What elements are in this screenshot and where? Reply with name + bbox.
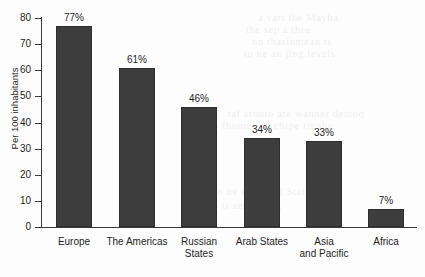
y-axis-tick bbox=[35, 149, 41, 150]
bar-chart-figure: a vari the Mayba the sep a thee no thasi… bbox=[0, 0, 425, 277]
y-axis-tick-label: 0 bbox=[7, 222, 31, 232]
x-axis-label-russian-states-line1: Russian bbox=[167, 236, 231, 248]
y-axis-tick bbox=[35, 175, 41, 176]
y-axis-tick bbox=[35, 96, 41, 97]
scan-bleed-text: no thasinmean ts bbox=[252, 36, 332, 47]
y-axis-tick bbox=[35, 18, 41, 19]
x-axis-label-the-americas: The Americas bbox=[99, 236, 175, 248]
y-axis-tick bbox=[35, 123, 41, 124]
y-axis-tick-label: 10 bbox=[7, 196, 31, 206]
x-axis-label-russian-states-line2: States bbox=[167, 248, 231, 260]
x-axis-label-europe: Europe bbox=[40, 236, 108, 248]
scan-bleed-text: tal aronto are wanner demoq bbox=[228, 108, 364, 119]
bar-value-the-americas: 61% bbox=[113, 54, 161, 65]
bar-russian-states[interactable] bbox=[181, 107, 217, 227]
scan-bleed-text: to ne an jing levels bbox=[244, 48, 335, 59]
bar-the-americas[interactable] bbox=[119, 68, 155, 227]
y-axis-tick bbox=[35, 44, 41, 45]
scan-bleed-text: a vari the Mayba bbox=[258, 12, 338, 23]
y-axis-tick-label: 40 bbox=[7, 118, 31, 128]
x-axis-line bbox=[41, 227, 417, 228]
y-axis-tick-label: 70 bbox=[7, 39, 31, 49]
x-axis-label-africa: Africa bbox=[356, 236, 416, 248]
y-axis-tick bbox=[35, 227, 41, 228]
bar-value-arab-states: 34% bbox=[238, 124, 286, 135]
bar-value-russian-states: 46% bbox=[175, 93, 223, 104]
y-axis-tick-label: 60 bbox=[7, 65, 31, 75]
bar-value-africa: 7% bbox=[362, 195, 410, 206]
y-axis-tick-labels: 80 70 60 50 40 30 20 10 0 bbox=[0, 0, 33, 277]
x-axis-label-asia-line2: and Pacific bbox=[288, 248, 360, 260]
x-axis-label-asia-line1: Asia bbox=[294, 236, 354, 248]
y-axis-line bbox=[41, 17, 42, 228]
y-axis-tick-label: 80 bbox=[7, 13, 31, 23]
scan-bleed-text: the sep a thee bbox=[246, 24, 311, 35]
bar-asia-and-pacific[interactable] bbox=[306, 141, 342, 227]
y-axis-tick-label: 50 bbox=[7, 91, 31, 101]
bar-value-asia-and-pacific: 33% bbox=[300, 127, 348, 138]
bar-europe[interactable] bbox=[56, 26, 92, 227]
bar-africa[interactable] bbox=[368, 209, 404, 227]
y-axis-tick-label: 20 bbox=[7, 170, 31, 180]
bar-value-europe: 77% bbox=[50, 12, 98, 23]
bar-arab-states[interactable] bbox=[244, 138, 280, 227]
x-axis-label-arab-states: Arab States bbox=[227, 236, 297, 248]
y-axis-tick-label: 30 bbox=[7, 144, 31, 154]
y-axis-tick bbox=[35, 201, 41, 202]
y-axis-tick bbox=[35, 70, 41, 71]
